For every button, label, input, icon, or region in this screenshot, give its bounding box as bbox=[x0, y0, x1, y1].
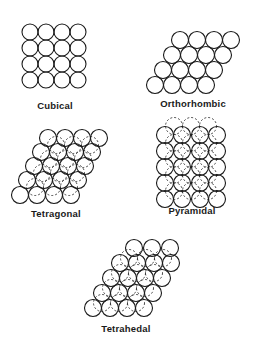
sphere bbox=[102, 300, 119, 317]
orthorhombic-label: Orthorhombic bbox=[160, 98, 226, 109]
sphere bbox=[22, 24, 38, 40]
sphere bbox=[215, 47, 232, 64]
sphere bbox=[63, 187, 80, 204]
orthorhombic-packing-panel bbox=[147, 32, 240, 94]
sphere bbox=[54, 56, 70, 72]
sphere bbox=[38, 72, 54, 88]
sphere bbox=[94, 285, 111, 302]
sphere bbox=[119, 300, 136, 317]
sphere bbox=[22, 56, 38, 72]
sphere bbox=[172, 32, 189, 49]
sphere bbox=[85, 300, 102, 317]
sphere bbox=[164, 77, 181, 94]
sphere bbox=[155, 62, 172, 79]
sphere bbox=[147, 77, 164, 94]
sphere bbox=[111, 285, 128, 302]
sphere bbox=[209, 175, 226, 192]
sphere bbox=[38, 24, 54, 40]
sphere bbox=[53, 172, 70, 189]
sphere bbox=[70, 24, 86, 40]
sphere bbox=[137, 270, 154, 287]
sphere bbox=[12, 187, 29, 204]
sphere bbox=[46, 187, 63, 204]
sphere bbox=[189, 62, 206, 79]
sphere bbox=[162, 240, 179, 257]
sphere bbox=[70, 172, 87, 189]
sphere bbox=[36, 172, 53, 189]
crystal-packing-diagram bbox=[0, 0, 256, 339]
sphere bbox=[181, 77, 198, 94]
sphere bbox=[144, 240, 161, 257]
sphere bbox=[209, 127, 226, 144]
tetrahedal-packing-panel bbox=[85, 240, 180, 317]
sphere bbox=[181, 47, 198, 64]
sphere bbox=[209, 159, 226, 176]
sphere bbox=[136, 300, 153, 317]
sphere bbox=[19, 172, 36, 189]
sphere bbox=[164, 47, 181, 64]
sphere bbox=[128, 285, 145, 302]
tetragonal-label: Tetragonal bbox=[31, 208, 81, 219]
sphere bbox=[38, 56, 54, 72]
sphere bbox=[38, 40, 54, 56]
sphere bbox=[112, 255, 129, 272]
tetrahedal-label: Tetrahedal bbox=[101, 323, 150, 334]
sphere bbox=[103, 270, 120, 287]
sphere bbox=[223, 32, 240, 49]
pyramidal-packing-panel bbox=[157, 118, 226, 208]
sphere bbox=[126, 240, 143, 257]
sphere bbox=[146, 255, 163, 272]
sphere bbox=[120, 270, 137, 287]
sphere bbox=[54, 24, 70, 40]
sphere bbox=[163, 255, 180, 272]
sphere bbox=[22, 40, 38, 56]
sphere bbox=[22, 72, 38, 88]
sphere bbox=[70, 40, 86, 56]
sphere bbox=[29, 187, 46, 204]
sphere bbox=[206, 62, 223, 79]
sphere bbox=[70, 72, 86, 88]
sphere bbox=[206, 32, 223, 49]
pyramidal-label: Pyramidal bbox=[168, 205, 215, 216]
sphere bbox=[198, 77, 215, 94]
tetragonal-packing-panel bbox=[12, 130, 108, 204]
sphere bbox=[70, 56, 86, 72]
sphere bbox=[209, 143, 226, 160]
sphere bbox=[172, 62, 189, 79]
sphere-lower-layer bbox=[183, 118, 200, 135]
sphere bbox=[198, 47, 215, 64]
sphere bbox=[189, 32, 206, 49]
sphere bbox=[54, 40, 70, 56]
sphere bbox=[129, 255, 146, 272]
cubical-packing-panel bbox=[22, 24, 86, 88]
sphere bbox=[54, 72, 70, 88]
cubical-label: Cubical bbox=[37, 100, 73, 111]
sphere bbox=[154, 270, 171, 287]
sphere bbox=[145, 285, 162, 302]
